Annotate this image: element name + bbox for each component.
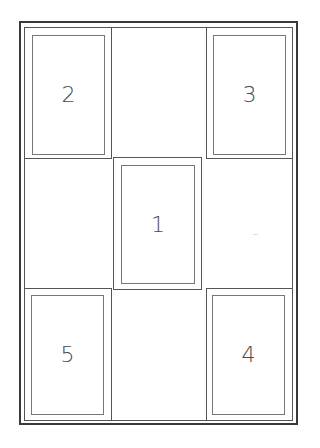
- panel-label: 3: [243, 84, 257, 106]
- panel-label: 2: [62, 84, 76, 106]
- divider-bottom-right: [206, 288, 207, 421]
- panel-4: 4: [212, 295, 285, 415]
- divider-row2-left: [24, 288, 112, 289]
- panel-3: 3: [213, 35, 286, 155]
- divider-row2-right: [206, 288, 293, 289]
- panel-label: 4: [242, 344, 256, 366]
- faint-mark: [253, 234, 258, 235]
- panel-label: 1: [151, 214, 165, 236]
- panel-1: 1: [121, 165, 195, 284]
- divider-row1-right: [206, 158, 293, 159]
- divider-row1-left: [24, 158, 112, 159]
- panel-5: 5: [31, 295, 104, 415]
- panel-2: 2: [32, 35, 105, 155]
- panel-label: 5: [61, 344, 75, 366]
- divider-bottom-left: [111, 288, 112, 421]
- divider-top-right: [206, 27, 207, 159]
- divider-top-left: [111, 27, 112, 159]
